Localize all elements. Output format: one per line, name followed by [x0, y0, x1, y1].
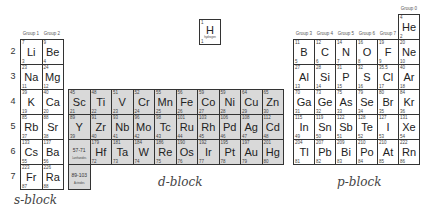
atomic-mass: 40	[400, 65, 405, 70]
atomic-mass: 210	[379, 140, 387, 145]
element-cell: 85Rb37	[20, 114, 43, 140]
atomic-number: 74	[135, 159, 140, 164]
element-cell: 88Sr38	[42, 114, 65, 140]
element-cell: 56Fe26	[176, 89, 199, 115]
element-symbol: Ru	[177, 121, 198, 134]
atomic-mass: 51	[113, 90, 118, 95]
element-symbol: Co	[198, 96, 219, 109]
atomic-mass: 137	[44, 140, 52, 145]
element-symbol: Al	[294, 71, 314, 84]
element-cell: 127I53	[377, 114, 399, 140]
element-cell: 7Li3	[20, 39, 43, 65]
element-symbol: Ti	[91, 96, 112, 109]
element-cell: 31P15	[335, 64, 357, 90]
element-cell: 39K19	[20, 89, 43, 115]
element-cell: 184W74	[133, 139, 156, 165]
element-symbol: Po	[357, 146, 377, 159]
atomic-number: 80	[264, 159, 269, 164]
atomic-mass: 79	[358, 90, 363, 95]
element-cell-hydrogen: 1 H hydrogen 1	[199, 19, 221, 45]
element-cell: 40Ca20	[42, 89, 65, 115]
element-symbol: Ga	[294, 96, 314, 109]
element-symbol: Cd	[263, 121, 284, 134]
d-block-label: d-block	[158, 175, 202, 189]
element-symbol: W	[134, 146, 155, 159]
element-symbol: Kr	[399, 96, 419, 109]
element-symbol: Be	[43, 46, 64, 59]
element-symbol: V	[112, 96, 133, 109]
element-symbol: Mg	[43, 71, 64, 84]
element-cell: 108Ag47	[240, 114, 263, 140]
element-cell: 48Ti22	[90, 89, 113, 115]
atomic-mass: 12	[316, 40, 321, 45]
atomic-mass: 226	[44, 165, 52, 170]
atomic-mass: 112	[264, 115, 271, 120]
element-symbol: Ge	[315, 96, 335, 109]
atomic-number: 78	[221, 159, 226, 164]
group-label-7: Group 7	[377, 31, 399, 36]
element-symbol: Cu	[241, 96, 262, 109]
s-block-label: s-block	[14, 193, 57, 207]
element-symbol: Fe	[177, 96, 198, 109]
element-symbol: Pt	[220, 146, 241, 159]
element-symbol: Cs	[21, 146, 42, 159]
element-cell: 23Na11	[20, 64, 43, 90]
element-symbol: Pd	[220, 121, 241, 134]
element-symbol: Li	[21, 46, 42, 59]
element-cell: 101Ru44	[176, 114, 199, 140]
atomic-number: 87	[22, 184, 27, 189]
element-symbol: S	[357, 71, 377, 84]
element-range-cell: 57-71Lanthanides	[68, 139, 91, 165]
atomic-mass: 207	[316, 140, 324, 145]
element-cell: 73Ge32	[314, 89, 336, 115]
atomic-mass: 80	[379, 90, 384, 95]
element-symbol: Sb	[336, 121, 356, 134]
atomic-mass: 4	[400, 15, 403, 20]
element-cell: 20Ne10	[398, 39, 420, 65]
element-symbol: Ag	[241, 121, 262, 134]
element-symbol: Ca	[43, 96, 64, 109]
element-cell: 181Ta73	[111, 139, 134, 165]
atomic-mass: 45	[70, 90, 75, 95]
atomic-number: 72	[92, 159, 97, 164]
atomic-mass: 122	[337, 115, 345, 120]
atomic-mass: 197	[242, 140, 250, 145]
element-symbol: Re	[155, 146, 176, 159]
element-symbol: Y	[69, 121, 90, 134]
element-cell: 28Si14	[314, 64, 336, 90]
element-cell: 209Bi83	[335, 139, 357, 165]
atomic-number: 79	[242, 159, 247, 164]
atomic-mass: 70	[295, 90, 300, 95]
element-symbol: Rh	[198, 121, 219, 134]
element-cell: 70Ga31	[293, 89, 315, 115]
element-cell: 84Kr36	[398, 89, 420, 115]
atomic-mass: 179	[92, 140, 100, 145]
group-label-0: Group 0	[398, 6, 420, 11]
element-symbol: Nb	[112, 121, 133, 134]
element-cell: 65Zn30	[262, 89, 285, 115]
atomic-mass: 48	[92, 90, 97, 95]
atomic-number: 81	[295, 159, 300, 164]
element-cell: 133Cs55	[20, 139, 43, 165]
element-symbol: Fr	[21, 171, 42, 184]
atomic-mass: 9	[44, 40, 47, 45]
atomic-mass: 64	[242, 90, 247, 95]
atomic-mass: 192	[199, 140, 207, 145]
atomic-mass: 115	[295, 115, 302, 120]
atomic-mass: 85	[22, 115, 27, 120]
element-cell: 115In49	[293, 114, 315, 140]
element-cell: 179Hf72	[90, 139, 113, 165]
element-cell: 186Re75	[154, 139, 177, 165]
element-symbol: Se	[357, 96, 377, 109]
element-symbol: Sr	[43, 121, 64, 134]
series-name: Lanthanides	[69, 157, 90, 160]
element-cell: 24Mg12	[42, 64, 65, 90]
atomic-mass: 96	[135, 115, 140, 120]
element-cell: 112Cd48	[262, 114, 285, 140]
atomic-mass: 88	[44, 115, 49, 120]
period-label: 2	[8, 46, 18, 56]
element-symbol: Mn	[155, 96, 176, 109]
atomic-mass: 195	[221, 140, 229, 145]
element-symbol: Ar	[399, 71, 419, 84]
element-symbol: Ne	[399, 46, 419, 59]
